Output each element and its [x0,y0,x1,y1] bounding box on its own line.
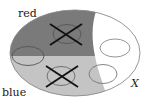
label-blue: blue [2,86,26,99]
label-space-x: X [130,77,140,90]
set-partition-diagram: red blue X [0,0,145,100]
label-red: red [18,7,37,20]
red-region [0,0,101,56]
